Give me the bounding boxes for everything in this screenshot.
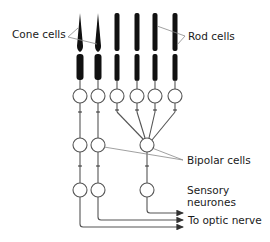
rod-cell-1 <box>115 13 120 89</box>
label-optic-nerve: To optic nerve <box>187 214 262 226</box>
retina-diagram: Cone cells Rod cells Bipolar cells Senso… <box>0 0 270 242</box>
label-bipolar-cells: Bipolar cells <box>187 154 251 166</box>
rod-cell-4 <box>173 13 178 89</box>
rod-cell-3 <box>153 13 158 89</box>
cone-cell-2 <box>95 13 102 89</box>
sensory-neurones <box>73 183 154 197</box>
photoreceptor-nuclei <box>73 89 182 103</box>
optic-nerve-arrows <box>80 197 183 227</box>
bipolar-to-sensory-wires <box>78 152 149 183</box>
cone-cell-1 <box>77 13 84 89</box>
bipolar-cells <box>73 138 154 152</box>
rod-convergence-wires <box>115 103 177 140</box>
label-sensory-neurones-1: Sensory <box>187 184 229 196</box>
label-rod-cells: Rod cells <box>188 30 235 42</box>
label-cone-cells: Cone cells <box>12 28 66 40</box>
rod-cell-2 <box>135 13 140 89</box>
label-sensory-neurones-2: neurones <box>187 196 236 208</box>
cone-to-bipolar-wires <box>78 103 100 138</box>
